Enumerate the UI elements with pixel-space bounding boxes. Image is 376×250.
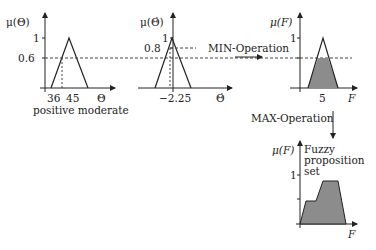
x-axis-label: F: [347, 92, 356, 104]
x-tick-45: 45: [66, 92, 79, 104]
x-tick: 5: [319, 92, 326, 104]
x-tick: −2.25: [159, 92, 191, 104]
y-axis-label: μ(F): [272, 144, 294, 156]
annotation-line-3: set: [304, 165, 321, 177]
min-operation-label: MIN-Operation: [208, 42, 289, 54]
y-tick-0.6: 0.6: [18, 52, 35, 64]
panel-result: μ(F) 1 F Fuzzy proposition set: [272, 141, 365, 240]
y-tick-1: 1: [162, 32, 169, 44]
fuzzy-inference-diagram: μ(Θ) 1 0.6 36 45 Θ positive moderate μ(Θ…: [0, 0, 376, 250]
max-operation-label: MAX-Operation: [251, 112, 334, 124]
y-axis-label: μ(F): [270, 16, 292, 28]
set-name-label: positive moderate: [33, 104, 129, 116]
y-tick-1: 1: [290, 169, 297, 181]
x-axis-label: Θ̇: [216, 92, 225, 104]
x-axis-label: F: [347, 228, 356, 240]
y-axis-label: μ(Θ): [6, 16, 30, 28]
fuzzy-proposition-area: [300, 181, 346, 224]
y-axis-label: μ(Θ̇): [140, 16, 164, 28]
panel-f: μ(F) 1 5 F: [270, 13, 357, 104]
x-axis-label: Θ: [97, 92, 106, 104]
x-tick-36: 36: [47, 92, 61, 104]
y-tick-1: 1: [290, 32, 297, 44]
y-tick-0.8: 0.8: [144, 42, 161, 54]
y-tick-1: 1: [33, 32, 40, 44]
panel-theta: μ(Θ) 1 0.6 36 45 Θ positive moderate: [6, 13, 129, 116]
membership-triangle: [51, 38, 88, 88]
